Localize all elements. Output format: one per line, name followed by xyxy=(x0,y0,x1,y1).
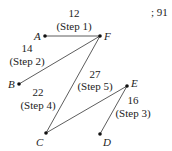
vertex-e-point xyxy=(125,84,129,88)
edge-f-b-step: (Step 2) xyxy=(9,55,44,68)
vertex-label-a: A xyxy=(33,30,41,42)
vertex-label-f: F xyxy=(103,30,111,42)
edge-labels: 12 (Step 1) 14 (Step 2) 16 (Step 3) 22 (… xyxy=(9,7,150,120)
edge-e-d-weight: 16 xyxy=(128,94,140,106)
vertex-c-point xyxy=(44,131,48,135)
edge-c-f-weight: 22 xyxy=(33,86,44,98)
edge-a-f-weight: 12 xyxy=(69,7,80,19)
edge-c-e-step: (Step 5) xyxy=(77,80,112,93)
vertex-label-e: E xyxy=(130,77,138,89)
edge-e-d-step: (Step 3) xyxy=(115,107,150,120)
vertex-label-d: D xyxy=(102,136,111,148)
page-number: ; 91 xyxy=(151,6,168,18)
spanning-tree-diagram: A F B E C D 12 (Step 1) 14 (Step 2) 16 (… xyxy=(0,0,172,151)
vertex-f-point xyxy=(98,34,102,38)
edge-c-f-step: (Step 4) xyxy=(20,99,55,112)
vertex-b-point xyxy=(17,82,21,86)
edge-f-b-weight: 14 xyxy=(22,42,34,54)
edge-a-f-step: (Step 1) xyxy=(56,20,91,33)
vertex-d-point xyxy=(98,132,102,136)
vertex-a-point xyxy=(43,34,47,38)
edge-c-e-weight: 27 xyxy=(90,68,102,80)
vertex-label-b: B xyxy=(8,78,15,90)
vertex-label-c: C xyxy=(36,136,44,148)
